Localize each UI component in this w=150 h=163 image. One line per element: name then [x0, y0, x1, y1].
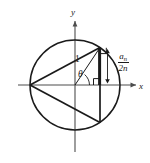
geometry-figure: y x 1 θ an 2n — [0, 0, 150, 163]
chord-left-upper — [30, 48, 100, 86]
fraction: an 2n — [118, 52, 129, 74]
fraction-numerator-subscript: n — [124, 55, 127, 62]
chord-left-lower — [30, 85, 100, 123]
theta-angle-label: θ — [78, 70, 83, 80]
y-axis-arrowhead — [73, 21, 78, 27]
fraction-numerator: an — [118, 52, 129, 62]
fraction-numerator-base: a — [119, 51, 124, 61]
half-side-length-label: an 2n — [110, 52, 136, 74]
radius-length-label: 1 — [75, 55, 80, 65]
fraction-denominator: 2n — [118, 64, 129, 74]
x-axis-arrowhead — [131, 83, 137, 88]
y-axis-label: y — [71, 8, 75, 17]
figure-canvas — [0, 0, 150, 163]
theta-angle-arc — [85, 75, 90, 86]
x-axis-label: x — [139, 82, 143, 91]
